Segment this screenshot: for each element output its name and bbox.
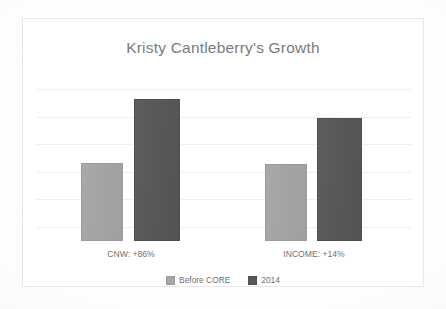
chart-legend: Before CORE 2014	[23, 275, 423, 285]
legend-swatch-icon	[248, 276, 257, 285]
category-label-income: INCOME: +14%	[249, 249, 379, 259]
plot-area: CNW: +86% INCOME: +14%	[37, 67, 411, 271]
legend-item-2014[interactable]: 2014	[248, 275, 280, 285]
chart-title: Kristy Cantleberry's Growth	[23, 39, 423, 57]
legend-swatch-icon	[166, 276, 175, 285]
bar-cnw-2014	[134, 99, 180, 241]
legend-label-before-core: Before CORE	[179, 275, 230, 285]
bar-cnw-before-core	[81, 163, 123, 241]
category-label-cnw: CNW: +86%	[67, 249, 195, 259]
bar-income-2014	[317, 118, 362, 241]
bar-income-before-core	[265, 164, 307, 241]
category-axis-labels: CNW: +86% INCOME: +14%	[37, 249, 411, 263]
chart-frame: Kristy Cantleberry's Growth CNW: +86% IN…	[22, 18, 424, 287]
bars-layer	[37, 67, 411, 241]
legend-item-before-core[interactable]: Before CORE	[166, 275, 230, 285]
legend-label-2014: 2014	[261, 275, 280, 285]
